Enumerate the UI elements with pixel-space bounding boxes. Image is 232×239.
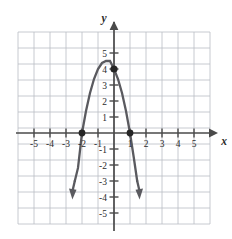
x-tick-label: -5 <box>30 139 38 149</box>
x-tick-label: -2 <box>78 139 86 149</box>
y-tick-label: -4 <box>99 193 107 203</box>
y-tick-label: 3 <box>102 81 107 91</box>
y-tick-label: -5 <box>99 209 107 219</box>
point-y-intercept <box>110 65 117 72</box>
coordinate-plane-svg: -5 -4 -3 -2 -1 1 2 3 4 5 5 4 3 2 1 -1 -2… <box>0 0 232 239</box>
y-tick-label: -1 <box>99 145 107 155</box>
canvas-background <box>0 0 232 239</box>
x-tick-label: 2 <box>144 139 149 149</box>
y-axis-label: y <box>99 12 107 25</box>
y-tick-label: -2 <box>99 161 107 171</box>
y-tick-label: -3 <box>99 177 107 187</box>
y-tick-label: 1 <box>102 113 107 123</box>
x-tick-label: 3 <box>160 139 165 149</box>
point-x-intercept-left <box>79 130 86 137</box>
y-tick-label: 5 <box>102 49 107 59</box>
graph-figure: -5 -4 -3 -2 -1 1 2 3 4 5 5 4 3 2 1 -1 -2… <box>0 0 232 239</box>
x-axis-label: x <box>220 135 227 147</box>
y-tick-label: 4 <box>102 65 107 75</box>
x-tick-label: -4 <box>46 139 54 149</box>
x-tick-label: 4 <box>176 139 181 149</box>
x-tick-label: 1 <box>128 139 133 149</box>
y-tick-label: 2 <box>102 97 107 107</box>
x-tick-label: -3 <box>62 139 70 149</box>
point-x-intercept-right <box>127 130 134 137</box>
x-tick-label: 5 <box>192 139 197 149</box>
